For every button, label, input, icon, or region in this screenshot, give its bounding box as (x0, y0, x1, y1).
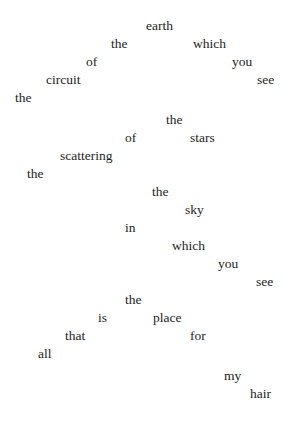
poem-word: all (38, 346, 52, 362)
poem-word: scattering (60, 148, 112, 164)
poem-word: place (153, 310, 181, 326)
poem-word: in (125, 220, 136, 236)
poem-word: hair (250, 386, 271, 402)
poem-word: which (172, 238, 205, 254)
poem-word: the (166, 112, 183, 128)
concrete-poem: earth the which of you circuit see the t… (0, 0, 291, 421)
poem-word: you (232, 54, 252, 70)
poem-word: the (27, 166, 44, 182)
poem-word: the (15, 90, 32, 106)
poem-word: which (193, 36, 226, 52)
poem-word: see (257, 72, 274, 88)
poem-word: of (125, 130, 136, 146)
poem-word: is (98, 310, 107, 326)
poem-word: that (65, 328, 85, 344)
poem-word: earth (146, 18, 173, 34)
poem-word: circuit (46, 72, 80, 88)
poem-word: for (190, 328, 206, 344)
poem-word: see (256, 274, 273, 290)
poem-word: the (152, 184, 169, 200)
poem-word: stars (190, 130, 215, 146)
poem-word: you (218, 256, 238, 272)
poem-word: my (224, 368, 241, 384)
poem-word: the (125, 292, 142, 308)
poem-word: sky (185, 202, 204, 218)
poem-word: of (86, 54, 97, 70)
poem-word: the (111, 36, 128, 52)
